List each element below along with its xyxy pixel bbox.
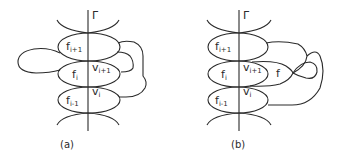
panel-b: Γ fi+1 fi fi-1 vi+1 vi f (b)	[207, 9, 323, 150]
left-loop	[18, 49, 60, 74]
vertex-label-i+1: vi+1	[92, 61, 111, 75]
face-label-i-1: fi-1	[66, 94, 79, 108]
extra-face-label: f	[276, 67, 281, 80]
face-label-i+1: fi+1	[215, 40, 231, 54]
right-inner-curve	[117, 52, 133, 72]
face-label-i: fi	[72, 68, 78, 82]
right-upper-curve	[266, 42, 307, 73]
panel-a: Γ fi+1 fi fi-1 vi+1 vi (a)	[18, 9, 146, 150]
caption-a: (a)	[60, 139, 74, 150]
face-label-i-1: fi-1	[215, 94, 228, 108]
gamma-label: Γ	[92, 9, 99, 22]
vertex-label-i: vi	[92, 85, 101, 99]
gamma-label: Γ	[243, 9, 250, 22]
figure: Γ fi+1 fi fi-1 vi+1 vi (a) Γ	[0, 0, 341, 160]
caption-b: (b)	[231, 139, 245, 150]
face-label-i: fi	[221, 68, 227, 82]
face-label-i+1: fi+1	[66, 40, 82, 54]
vertex-label-i: vi	[243, 85, 252, 99]
